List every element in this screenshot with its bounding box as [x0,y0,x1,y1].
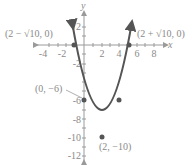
parabola-graph: x y -4 -2 2 4 6 8 2 -2 -6 -8 -10 -12 (2 … [0,0,193,166]
point-x-intercept-right [127,43,132,48]
label-y-intercept: (0, −6) [35,83,62,95]
y-tick-label: -10 [68,132,81,143]
point-symmetric [117,98,122,103]
x-tick-label: -2 [58,48,66,59]
y-tick-label: -12 [68,150,81,161]
point-vertex [100,135,105,140]
y-tick-label: 2 [76,21,81,32]
label-vertex: (2, −10) [99,141,131,153]
x-tick-label: 8 [152,48,157,59]
y-tick-label: -8 [73,114,81,125]
parabola-curve [73,25,132,110]
point-y-intercept [82,98,87,103]
x-tick-label: -4 [39,48,47,59]
point-x-intercept-left [72,43,77,48]
label-right-intercept: (2 + √10, 0) [137,28,185,40]
label-left-intercept: (2 − √10, 0) [5,28,53,40]
x-tick-label: 4 [117,48,122,59]
y-axis-label: y [80,0,86,11]
x-tick-label: 6 [135,48,140,59]
x-axis-label: x [167,39,173,50]
x-tick-label: 2 [100,48,105,59]
